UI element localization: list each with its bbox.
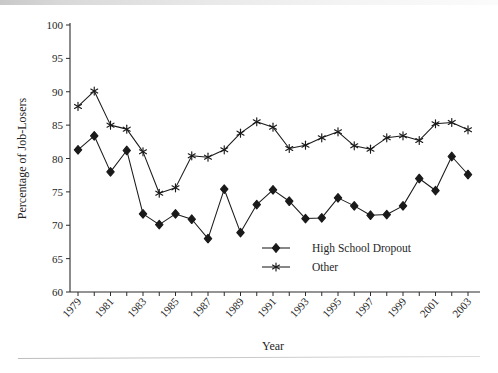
x-tick-label: 1993 — [287, 295, 311, 320]
data-point-marker-diamond — [237, 228, 244, 237]
legend-item-high-school-dropout: High School Dropout — [262, 242, 412, 255]
x-tick-label: 2001 — [417, 295, 441, 319]
x-tick-label: 1995 — [320, 295, 344, 320]
x-tick-label: 1997 — [352, 295, 376, 320]
legend-item-other: Other — [262, 261, 338, 273]
legend-label: High School Dropout — [312, 242, 412, 255]
data-point-marker-asterisk — [335, 128, 342, 136]
x-tick-label: 1983 — [125, 295, 149, 320]
y-tick-label: 70 — [52, 219, 64, 231]
y-tick-label: 95 — [52, 52, 64, 64]
data-point-marker-diamond — [351, 202, 358, 211]
chart-figure: Percentage of Job-Losers 606570758085909… — [0, 0, 498, 373]
line-chart: Percentage of Job-Losers 606570758085909… — [0, 0, 498, 373]
data-point-marker-asterisk — [465, 126, 472, 134]
data-point-marker-diamond — [399, 202, 406, 211]
x-tick-label: 1979 — [60, 295, 84, 320]
data-point-marker-diamond — [416, 174, 423, 183]
x-tick-label: 1991 — [255, 295, 279, 319]
axes-layer — [66, 23, 480, 296]
x-tick-labels: 1979198119831985198719891991199319951997… — [60, 295, 474, 320]
data-point-marker-diamond — [432, 186, 439, 195]
data-point-marker-asterisk — [318, 134, 325, 142]
chart-legend: High School DropoutOther — [262, 242, 412, 273]
data-point-marker-diamond — [139, 210, 146, 219]
y-tick-label: 60 — [52, 286, 64, 298]
y-tick-label: 80 — [52, 153, 64, 165]
y-axis-title: Percentage of Job-Losers — [15, 98, 29, 220]
data-point-marker-diamond — [91, 132, 98, 141]
data-series-layer — [74, 87, 471, 243]
data-point-marker-asterisk — [107, 121, 114, 129]
data-point-marker-diamond — [74, 146, 81, 155]
data-point-marker-diamond — [221, 185, 228, 194]
scan-artifact-top-band — [0, 0, 498, 5]
x-axis-title-group: Year — [262, 339, 284, 353]
x-tick-label: 1985 — [157, 295, 181, 320]
x-axis-title: Year — [262, 339, 284, 353]
series-line — [78, 91, 468, 193]
x-tick-label: 1987 — [190, 295, 214, 320]
y-axis-title-group: Percentage of Job-Losers — [15, 98, 29, 220]
x-tick-label: 1981 — [92, 295, 116, 319]
y-tick-label: 100 — [47, 19, 64, 31]
data-point-marker-asterisk — [253, 118, 260, 126]
data-point-marker-diamond — [367, 211, 374, 220]
y-tick-label: 65 — [52, 253, 64, 265]
y-tick-label: 75 — [52, 186, 64, 198]
legend-label: Other — [312, 261, 338, 273]
y-tick-labels: 6065707580859095100 — [47, 19, 64, 298]
y-tick-label: 90 — [52, 86, 64, 98]
data-point-marker-diamond — [172, 210, 179, 219]
data-point-marker-asterisk — [172, 184, 179, 192]
data-point-marker-diamond — [156, 220, 163, 229]
data-point-marker-diamond — [383, 210, 390, 219]
data-point-marker-asterisk — [156, 189, 163, 197]
y-tick-label: 85 — [52, 119, 64, 131]
x-tick-label: 1989 — [222, 295, 246, 320]
x-tick-label: 2003 — [450, 295, 474, 320]
data-series-high-school-dropout — [74, 132, 471, 243]
x-tick-label: 1999 — [385, 295, 409, 320]
data-point-marker-diamond — [272, 244, 279, 253]
